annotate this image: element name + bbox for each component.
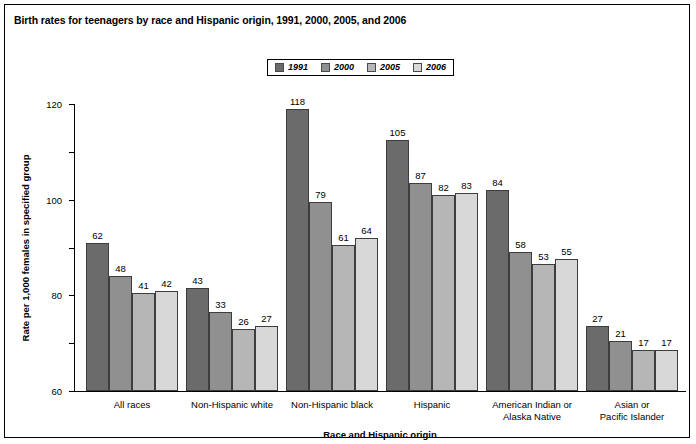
bar-slot: 64 bbox=[355, 104, 378, 391]
legend-swatch-2006 bbox=[413, 63, 422, 72]
bar-value-label: 87 bbox=[415, 170, 426, 181]
bar-value-label: 26 bbox=[238, 316, 249, 327]
x-axis-category-line: Alaska Native bbox=[478, 411, 586, 423]
bar-2005-3[interactable] bbox=[432, 195, 455, 391]
bar-value-label: 21 bbox=[615, 328, 626, 339]
x-axis-category-label: American Indian orAlaska Native bbox=[478, 399, 586, 422]
bar-2006-1[interactable] bbox=[255, 326, 278, 391]
y-axis-tick-label: 100 bbox=[46, 194, 62, 205]
bar-slot: 118 bbox=[286, 104, 309, 391]
bar-slot: 17 bbox=[655, 104, 678, 391]
bar-slot: 53 bbox=[532, 104, 555, 391]
plot-area: 02040608010012062484142All races43332627… bbox=[74, 104, 686, 392]
y-axis-tick: 100 bbox=[69, 152, 74, 153]
bar-value-label: 62 bbox=[92, 230, 103, 241]
chart-title: Birth rates for teenagers by race and Hi… bbox=[14, 14, 406, 26]
legend-swatch-2000 bbox=[321, 63, 330, 72]
y-axis-tick-label: 60 bbox=[51, 386, 62, 397]
bar-value-label: 48 bbox=[115, 263, 126, 274]
bar-slot: 83 bbox=[455, 104, 478, 391]
bar-slot: 41 bbox=[132, 104, 155, 391]
x-axis-category-label: Non-Hispanic black bbox=[278, 399, 386, 411]
legend-item-1991[interactable]: 1991 bbox=[275, 63, 308, 72]
bar-1991-4[interactable] bbox=[486, 190, 509, 391]
bar-value-label: 55 bbox=[561, 246, 572, 257]
bar-slot: 62 bbox=[86, 104, 109, 391]
bar-slot: 26 bbox=[232, 104, 255, 391]
x-axis-title: Race and Hispanic origin bbox=[74, 429, 686, 440]
bar-slot: 42 bbox=[155, 104, 178, 391]
bar-2000-2[interactable] bbox=[309, 202, 332, 391]
bar-2006-0[interactable] bbox=[155, 291, 178, 391]
x-axis-category-label: Asian orPacific Islander bbox=[578, 399, 686, 422]
legend-label-1991: 1991 bbox=[288, 63, 308, 72]
bar-2005-4[interactable] bbox=[532, 264, 555, 391]
x-axis-category-line: Non-Hispanic white bbox=[178, 399, 286, 411]
bar-value-label: 83 bbox=[461, 180, 472, 191]
bar-value-label: 79 bbox=[315, 189, 326, 200]
bar-1991-1[interactable] bbox=[186, 288, 209, 391]
bar-2006-2[interactable] bbox=[355, 238, 378, 391]
bar-group-2: 118796164 bbox=[286, 104, 378, 391]
bar-1991-3[interactable] bbox=[386, 140, 409, 391]
x-axis-category-line: Hispanic bbox=[378, 399, 486, 411]
bar-slot: 27 bbox=[586, 104, 609, 391]
bar-value-label: 64 bbox=[361, 225, 372, 236]
bar-group-5: 27211717 bbox=[586, 104, 678, 391]
legend-label-2005: 2005 bbox=[380, 63, 400, 72]
bar-2005-5[interactable] bbox=[632, 350, 655, 391]
bar-slot: 27 bbox=[255, 104, 278, 391]
bar-2000-1[interactable] bbox=[209, 312, 232, 391]
bar-1991-2[interactable] bbox=[286, 109, 309, 391]
bar-2000-5[interactable] bbox=[609, 341, 632, 391]
figure-frame: Birth rates for teenagers by race and Hi… bbox=[4, 4, 690, 438]
bar-slot: 48 bbox=[109, 104, 132, 391]
bar-slot: 33 bbox=[209, 104, 232, 391]
legend-swatch-1991 bbox=[275, 63, 284, 72]
bar-value-label: 17 bbox=[638, 337, 649, 348]
legend-label-2006: 2006 bbox=[426, 63, 446, 72]
bar-group-0: 62484142 bbox=[86, 104, 178, 391]
bar-value-label: 33 bbox=[215, 299, 226, 310]
y-axis-tick: 120 bbox=[69, 104, 74, 105]
bar-2005-1[interactable] bbox=[232, 329, 255, 391]
bar-2005-2[interactable] bbox=[332, 245, 355, 391]
bar-2006-5[interactable] bbox=[655, 350, 678, 391]
bar-2006-4[interactable] bbox=[555, 259, 578, 391]
legend-item-2000[interactable]: 2000 bbox=[321, 63, 354, 72]
bar-2000-0[interactable] bbox=[109, 276, 132, 391]
x-axis-category-line: American Indian or bbox=[478, 399, 586, 411]
bar-slot: 87 bbox=[409, 104, 432, 391]
y-axis-tick-label: 80 bbox=[51, 290, 62, 301]
bar-value-label: 58 bbox=[515, 239, 526, 250]
y-axis-tick: 40 bbox=[69, 295, 74, 296]
legend-item-2006[interactable]: 2006 bbox=[413, 63, 446, 72]
bar-slot: 79 bbox=[309, 104, 332, 391]
bar-value-label: 43 bbox=[192, 275, 203, 286]
bar-value-label: 61 bbox=[338, 232, 349, 243]
bar-value-label: 82 bbox=[438, 182, 449, 193]
bar-2000-3[interactable] bbox=[409, 183, 432, 391]
x-axis-category-label: All races bbox=[78, 399, 186, 411]
legend-item-2005[interactable]: 2005 bbox=[367, 63, 400, 72]
y-axis-title: Rate per 1,000 females in specified grou… bbox=[19, 104, 33, 392]
bar-2006-3[interactable] bbox=[455, 193, 478, 392]
bar-value-label: 42 bbox=[161, 278, 172, 289]
bar-value-label: 41 bbox=[138, 280, 149, 291]
bar-value-label: 27 bbox=[261, 313, 272, 324]
bar-group-1: 43332627 bbox=[186, 104, 278, 391]
bar-group-3: 105878283 bbox=[386, 104, 478, 391]
bar-1991-5[interactable] bbox=[586, 326, 609, 391]
y-axis-tick: 80 bbox=[69, 200, 74, 201]
bar-value-label: 53 bbox=[538, 251, 549, 262]
bar-1991-0[interactable] bbox=[86, 243, 109, 391]
bar-2000-4[interactable] bbox=[509, 252, 532, 391]
bar-2005-0[interactable] bbox=[132, 293, 155, 391]
bar-value-label: 84 bbox=[492, 177, 503, 188]
bar-slot: 21 bbox=[609, 104, 632, 391]
bar-slot: 61 bbox=[332, 104, 355, 391]
chart-legend: 1991200020052006 bbox=[267, 59, 454, 76]
bar-slot: 17 bbox=[632, 104, 655, 391]
bar-slot: 55 bbox=[555, 104, 578, 391]
x-axis-line bbox=[74, 391, 686, 392]
